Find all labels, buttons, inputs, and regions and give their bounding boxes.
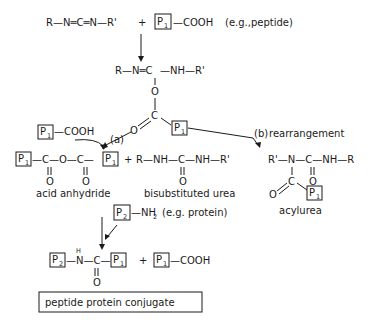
intermediate-oxygen: O xyxy=(151,86,159,97)
acylurea-chain: R'—N—C—NH—R xyxy=(268,154,354,165)
protein-p2-subscript: 2 xyxy=(123,213,127,221)
anhydride-p1-left-label: P xyxy=(18,153,24,164)
acylurea: R'—N—C—NH—R C O O P 1 acylurea xyxy=(268,154,354,216)
product-p2-label: P xyxy=(52,254,58,265)
byproduct-cooh: —COOH xyxy=(170,255,210,266)
reaction-scheme: R—N═C═N—R' + P 1 —COOH (e.g.,peptide) R—… xyxy=(0,0,371,328)
acylurea-p1-label: P xyxy=(309,187,315,198)
acylurea-label: acylurea xyxy=(279,205,322,216)
anhydride-o2: O xyxy=(82,176,90,187)
peptide-box-subscript: 1 xyxy=(164,22,168,30)
path-a-cooh: —COOH xyxy=(54,126,94,137)
arrow-down-2 xyxy=(99,217,117,250)
path-a-p1-subscript: 1 xyxy=(47,132,51,140)
path-a-label: (a) xyxy=(110,134,124,145)
urea-plus: + xyxy=(124,154,132,165)
byproduct-p1-label: P xyxy=(156,254,162,265)
product-plus: + xyxy=(139,255,147,266)
urea-label: bisubstituted urea xyxy=(144,188,235,199)
arrow-path-b xyxy=(188,128,261,148)
acylurea-c: C xyxy=(288,176,295,187)
product-p1-label: P xyxy=(113,254,119,265)
result-label-box: peptide protein conjugate xyxy=(39,292,202,312)
acylurea-o-right: O xyxy=(309,176,317,187)
protein-nh-subscript: 2 xyxy=(153,213,157,221)
intermediate-p1-label: P xyxy=(174,122,180,133)
o-acylisourea-intermediate: R—N═C —NH—R' O C O P 1 xyxy=(115,65,205,136)
product-p2-subscript: 2 xyxy=(59,260,63,268)
path-b-label: (b) xyxy=(254,128,268,139)
path-a-reagent: P 1 —COOH xyxy=(38,125,94,140)
peptide-box-label: P xyxy=(157,16,163,27)
intermediate-left: R—N═C xyxy=(115,65,152,76)
anhydride-p1-left-subscript: 1 xyxy=(25,159,29,167)
intermediate-p1-subscript: 1 xyxy=(181,128,185,136)
product-h: H xyxy=(76,247,81,255)
anhydride-p1-right-subscript: 1 xyxy=(112,159,116,167)
carbodiimide-formula: R—N═C═N—R' xyxy=(46,17,117,28)
product-chain: —N—C— xyxy=(66,255,110,266)
carbodiimide-reactant: R—N═C═N—R' xyxy=(46,17,117,28)
peptide-reactant: P 1 —COOH (e.g.,peptide) xyxy=(155,14,293,30)
byproduct-p1-subscript: 1 xyxy=(163,260,167,268)
arrow-down-1 xyxy=(138,34,144,62)
carboxyl-group: —COOH xyxy=(173,17,213,28)
urea-o: O xyxy=(179,176,187,187)
bisubstituted-urea: + R—NH—C—NH—R' O bisubstituted urea xyxy=(124,154,235,199)
amide-product: P 2 H —N—C— P 1 O xyxy=(50,247,126,288)
protein-p2-label: P xyxy=(116,207,122,218)
path-a-p1-label: P xyxy=(40,126,46,137)
anhydride-p1-right-label: P xyxy=(105,153,111,164)
plus-sign: + xyxy=(138,17,146,28)
urea-chain: R—NH—C—NH—R' xyxy=(136,154,230,165)
protein-note: (e.g. protein) xyxy=(162,207,227,218)
intermediate-carbonyl-o: O xyxy=(130,125,138,136)
anhydride-label: acid anhydride xyxy=(36,188,110,199)
protein-reagent: P 2 —NH 2 (e.g. protein) xyxy=(114,205,227,221)
peptide-note: (e.g.,peptide) xyxy=(225,17,293,28)
acylurea-o-left: O xyxy=(269,189,277,200)
path-b-text: rearrangement xyxy=(269,128,344,139)
result-label: peptide protein conjugate xyxy=(45,297,175,308)
anhydride-chain: —C—O—C— xyxy=(32,154,94,165)
acid-anhydride: P 1 —C—O—C— P 1 O O acid anhydride xyxy=(16,152,118,199)
intermediate-carbon: C xyxy=(151,110,158,121)
byproduct-peptide: P 1 —COOH xyxy=(154,253,210,268)
product-o: O xyxy=(93,277,101,288)
intermediate-right: —NH—R' xyxy=(160,65,205,76)
product-p1-subscript: 1 xyxy=(120,260,124,268)
anhydride-o1: O xyxy=(46,176,54,187)
acylurea-p1-subscript: 1 xyxy=(316,193,320,201)
